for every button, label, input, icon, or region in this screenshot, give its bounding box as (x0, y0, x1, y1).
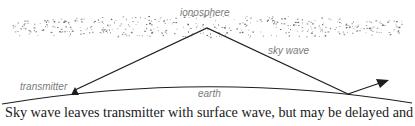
earth-label: earth (198, 88, 221, 99)
transmitter-label: transmitter (20, 81, 68, 92)
reflected-wave-line (348, 83, 380, 94)
sky-wave-label: sky wave (268, 45, 310, 56)
figure-caption: Sky wave leaves transmitter with surface… (5, 104, 413, 121)
ionosphere-label: ionosphere (180, 7, 230, 18)
ionosphere-band (13, 15, 403, 38)
